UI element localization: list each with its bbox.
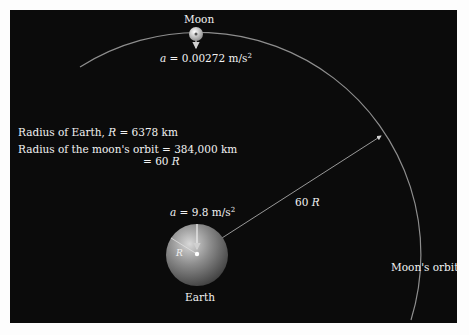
earth-acceleration: a = 9.8 m/s2 — [170, 206, 235, 218]
moon-label: Moon — [184, 13, 214, 25]
orbit-diagram — [0, 0, 469, 335]
earth-center-dot — [195, 252, 199, 256]
moon-orbit-path — [80, 32, 421, 320]
earth-label: Earth — [185, 291, 215, 303]
moon-acceleration: a = 0.00272 m/s2 — [160, 52, 252, 64]
earth-radius-info: Radius of Earth, R = 6378 km — [18, 126, 178, 138]
orbit-label: Moon's orbit — [391, 261, 458, 273]
orbit-radius-info: Radius of the moon's orbit = 384,000 km — [18, 143, 237, 155]
earth-radius-symbol: R — [176, 247, 183, 259]
moon-center-dot — [195, 33, 198, 36]
distance-label: 60 R — [295, 196, 320, 208]
orbit-radius-equiv: = 60 R — [143, 155, 180, 167]
